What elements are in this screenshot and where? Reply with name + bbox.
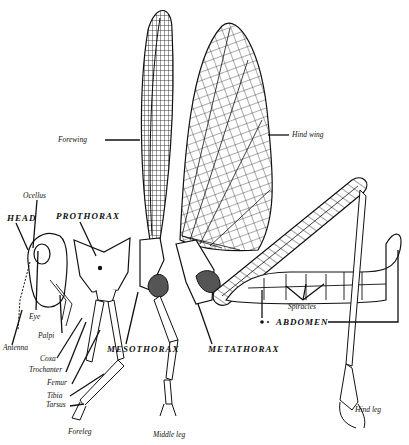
hind-wing-shape <box>180 23 272 251</box>
label-spiracles: Spiracles <box>288 303 316 311</box>
label-prothorax: PROTHORAX <box>56 212 120 221</box>
mesothorax-leader <box>126 292 138 344</box>
label-middle-leg: Middle leg <box>153 431 185 439</box>
label-mesothorax: MESOTHORAX <box>107 345 180 354</box>
label-foreleg: Foreleg <box>68 428 91 436</box>
label-antenna: Antenna <box>3 344 28 352</box>
label-tibia: Tibia <box>47 392 62 400</box>
mesothorax-shape <box>140 238 168 297</box>
label-metathorax: METATHORAX <box>208 345 280 354</box>
label-tarsus: Tarsus <box>46 401 66 409</box>
hind-leg-shape <box>340 190 366 428</box>
label-hind-leg: Hind leg <box>355 406 381 414</box>
prothorax-shape <box>74 238 130 302</box>
head-leader <box>16 223 28 250</box>
trochanter-leader <box>66 322 86 372</box>
label-head: HEAD <box>7 214 37 223</box>
head-shape <box>18 234 72 330</box>
coxa-leader <box>57 318 82 358</box>
abdomen-leader-dot <box>260 320 264 324</box>
antenna-leader <box>12 310 22 345</box>
middle-leg-shape <box>154 296 178 416</box>
label-ocellus: Ocellus <box>23 192 46 200</box>
grasshopper-anatomy-diagram: Forewing Hind wing Ocellus HEAD PROTHORA… <box>0 0 409 445</box>
label-coxa: Coxa <box>40 355 56 363</box>
label-eye: Eye <box>29 313 40 321</box>
label-abdomen: ABDOMEN <box>276 318 329 327</box>
forewing-shape <box>141 11 173 241</box>
label-femur: Femur <box>47 379 67 387</box>
abdomen-leader-dot-small <box>267 321 269 323</box>
label-hind-wing: Hind wing <box>292 131 323 139</box>
label-palpi: Palpi <box>38 332 54 340</box>
femur-leader <box>72 330 100 384</box>
foreleg-shape <box>72 300 124 420</box>
label-trochanter: Trochanter <box>29 366 62 374</box>
label-forewing: Forewing <box>58 136 87 144</box>
metathorax-leader <box>198 304 212 344</box>
